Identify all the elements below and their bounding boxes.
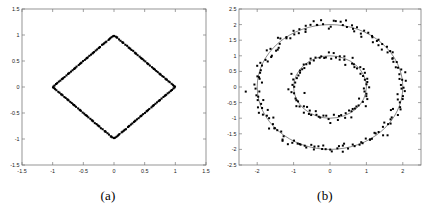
svg-text:-1.5: -1.5	[17, 168, 26, 174]
svg-text:2: 2	[401, 168, 404, 174]
svg-text:-1: -1	[15, 136, 20, 142]
svg-text:0.5: 0.5	[141, 168, 149, 174]
svg-text:1.5: 1.5	[229, 37, 237, 43]
panel-b-caption: (b)	[217, 188, 433, 204]
svg-text:-1.5: -1.5	[227, 131, 236, 137]
figure-container: -1.5-1-0.500.511.5-1.5-1-0.500.511.5 (a)…	[0, 0, 433, 206]
svg-text:0: 0	[17, 84, 20, 90]
svg-text:1: 1	[365, 168, 368, 174]
panel-a: -1.5-1-0.500.511.5-1.5-1-0.500.511.5 (a)	[0, 0, 216, 206]
svg-text:-0.5: -0.5	[227, 100, 236, 106]
panel-a-caption: (a)	[0, 188, 216, 204]
svg-text:1: 1	[17, 32, 20, 38]
svg-text:-1.5: -1.5	[10, 162, 19, 168]
svg-text:-0.5: -0.5	[79, 168, 88, 174]
scatter-plot-b: -2-1012-2.5-2-1.5-1-0.500.511.522.5	[217, 0, 433, 180]
svg-text:1: 1	[174, 168, 177, 174]
svg-text:-2.5: -2.5	[227, 162, 236, 168]
svg-text:0: 0	[329, 168, 332, 174]
svg-text:-2: -2	[255, 168, 260, 174]
svg-text:-1: -1	[50, 168, 55, 174]
scatter-plot-a: -1.5-1-0.500.511.5-1.5-1-0.500.511.5	[0, 0, 216, 180]
svg-text:2.5: 2.5	[229, 6, 237, 12]
svg-text:1.5: 1.5	[202, 168, 210, 174]
svg-text:0.5: 0.5	[12, 58, 20, 64]
svg-text:1.5: 1.5	[12, 6, 20, 12]
svg-text:0: 0	[234, 84, 237, 90]
svg-text:1: 1	[234, 53, 237, 59]
svg-text:-1: -1	[232, 115, 237, 121]
svg-text:-2: -2	[232, 146, 237, 152]
svg-text:0.5: 0.5	[229, 68, 237, 74]
svg-text:0: 0	[113, 168, 116, 174]
svg-text:2: 2	[234, 22, 237, 28]
svg-text:-0.5: -0.5	[10, 110, 19, 116]
svg-text:-1: -1	[291, 168, 296, 174]
panel-b: -2-1012-2.5-2-1.5-1-0.500.511.522.5 (b)	[217, 0, 433, 206]
